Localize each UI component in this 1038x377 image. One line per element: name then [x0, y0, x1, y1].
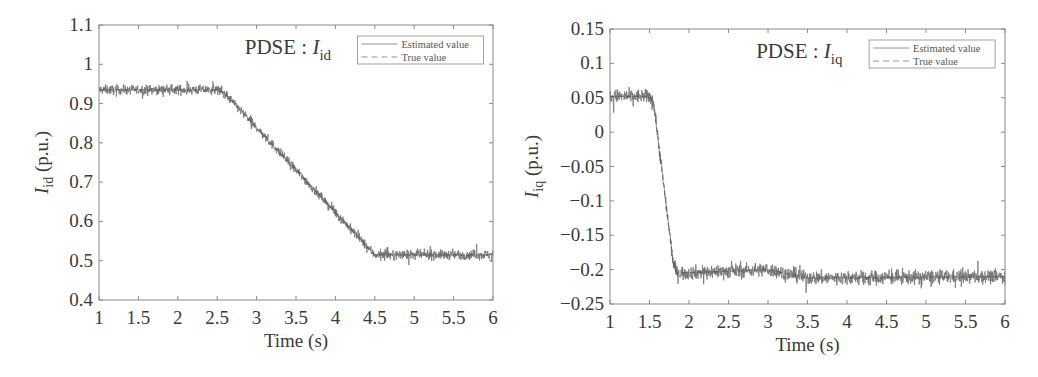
- legend-entry-true: True value: [913, 56, 958, 67]
- annotation-subscript: iq: [831, 51, 843, 67]
- y-axis-subscript: id: [41, 177, 56, 188]
- x-tick-label: 6: [1000, 311, 1010, 332]
- y-axis-title: Iiq (p.u.): [521, 135, 546, 199]
- x-tick-labels: 11.522.533.544.555.56: [605, 311, 1010, 332]
- x-tick-label: 3: [252, 307, 262, 328]
- x-tick-label: 2: [684, 311, 694, 332]
- y-tick-label: 0.05: [571, 87, 604, 108]
- x-tick-label: 1.5: [638, 311, 662, 332]
- y-tick-labels: 0.40.50.60.70.80.911.1: [69, 14, 93, 310]
- x-tick-label: 2.5: [205, 307, 229, 328]
- x-tick-labels: 11.522.533.544.555.56: [94, 307, 498, 328]
- x-tick-label: 2.5: [717, 311, 741, 332]
- axes-frame: [610, 29, 1005, 304]
- chart-annotation: PDSE : Iid: [245, 35, 332, 63]
- x-tick-label: 4.5: [363, 307, 387, 328]
- x-tick-label: 1: [605, 311, 615, 332]
- x-tick-label: 3.5: [284, 307, 308, 328]
- y-tick-labels: −0.25−0.2−0.15−0.1−0.0500.050.10.15: [560, 18, 604, 314]
- x-tick-label: 4.5: [875, 311, 899, 332]
- y-tick-label: 0.8: [69, 132, 93, 153]
- y-tick-label: −0.2: [570, 259, 604, 280]
- y-tick-label: −0.25: [560, 293, 604, 314]
- plot-lines: [99, 81, 493, 265]
- annotation-prefix: PDSE :: [245, 35, 313, 59]
- y-tick-label: 0.7: [69, 171, 93, 192]
- y-tick-label: 0.6: [69, 210, 93, 231]
- y-tick-label: 0.5: [69, 250, 93, 271]
- x-tick-label: 3: [763, 311, 773, 332]
- chart-id-current: 11.522.533.544.555.56 0.40.50.60.70.80.9…: [31, 14, 498, 352]
- x-axis-title: Time (s): [264, 330, 328, 352]
- x-tick-label: 5.5: [442, 307, 466, 328]
- x-tick-label: 5: [921, 311, 931, 332]
- y-axis-title: Iid (p.u.): [31, 131, 56, 195]
- y-axis-unit: (p.u.): [521, 135, 543, 181]
- x-tick-label: 2: [173, 307, 183, 328]
- chart-annotation: PDSE : Iiq: [756, 39, 843, 67]
- x-tick-label: 6: [488, 307, 498, 328]
- legend: Estimated value True value: [357, 36, 483, 64]
- plot-lines: [610, 87, 1005, 293]
- legend-entry-estimated: Estimated value: [913, 43, 981, 54]
- figure-canvas: 11.522.533.544.555.56 0.40.50.60.70.80.9…: [0, 0, 1038, 377]
- x-tick-label: 5.5: [954, 311, 978, 332]
- legend: Estimated value True value: [869, 40, 995, 68]
- y-tick-label: 0.15: [571, 18, 604, 39]
- x-tick-label: 5: [409, 307, 419, 328]
- y-tick-label: 0: [595, 121, 605, 142]
- y-tick-label: 1.1: [69, 14, 93, 35]
- x-tick-label: 4: [842, 311, 852, 332]
- y-axis-unit: (p.u.): [31, 131, 53, 177]
- axis-ticks: [610, 29, 1005, 304]
- x-tick-label: 1.5: [127, 307, 151, 328]
- y-tick-label: 1: [84, 53, 94, 74]
- y-tick-label: 0.4: [69, 289, 93, 310]
- y-tick-label: 0.1: [580, 52, 604, 73]
- y-tick-label: 0.9: [69, 93, 93, 114]
- annotation-subscript: id: [319, 47, 331, 63]
- annotation-prefix: PDSE :: [756, 39, 824, 63]
- legend-entry-true: True value: [401, 52, 446, 63]
- x-tick-label: 4: [331, 307, 341, 328]
- y-axis-subscript: iq: [531, 181, 546, 192]
- x-tick-label: 3.5: [796, 311, 820, 332]
- x-axis-title: Time (s): [775, 334, 839, 356]
- legend-entry-estimated: Estimated value: [401, 39, 469, 50]
- y-tick-label: −0.15: [560, 224, 604, 245]
- y-tick-label: −0.05: [560, 156, 604, 177]
- chart-iq-current: 11.522.533.544.555.56 −0.25−0.2−0.15−0.1…: [521, 18, 1010, 356]
- x-tick-label: 1: [94, 307, 104, 328]
- y-tick-label: −0.1: [570, 190, 604, 211]
